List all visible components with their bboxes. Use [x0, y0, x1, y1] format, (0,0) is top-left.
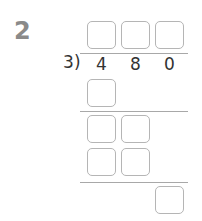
dividend-digit-ones: 0 — [164, 54, 175, 74]
quotient-box-hundreds[interactable] — [87, 21, 116, 49]
step2-box-hundreds[interactable] — [87, 115, 116, 143]
dividend-digit-tens: 8 — [130, 54, 141, 74]
step2-box-tens[interactable] — [121, 115, 150, 143]
divisor: 3 — [63, 52, 74, 72]
dividend-digit-hundreds: 4 — [96, 54, 107, 74]
question-number: 2 — [14, 17, 31, 45]
subtraction-line-2 — [80, 182, 188, 183]
step3-box-tens[interactable] — [121, 148, 150, 176]
subtraction-line-1 — [80, 111, 188, 112]
step1-box-hundreds[interactable] — [87, 79, 116, 107]
step3-box-hundreds[interactable] — [87, 148, 116, 176]
remainder-box[interactable] — [155, 186, 184, 214]
division-paren: ) — [74, 52, 81, 72]
quotient-box-tens[interactable] — [121, 21, 150, 49]
quotient-box-ones[interactable] — [155, 21, 184, 49]
